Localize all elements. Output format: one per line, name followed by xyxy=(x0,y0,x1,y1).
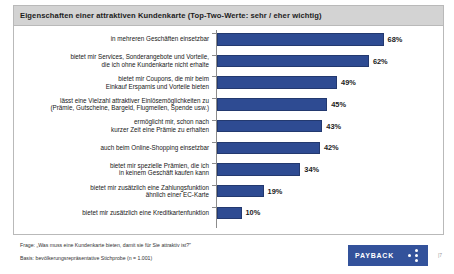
bar xyxy=(217,185,264,198)
axis-tick xyxy=(212,55,216,56)
footnote-question: Frage: „Was muss eine Kundenkarte bieten… xyxy=(20,242,191,248)
bar-category-label: lässt eine Vielzahl attraktiver Einlösem… xyxy=(19,97,209,112)
page-number: |7 xyxy=(438,252,442,258)
payback-logo-text: PAYBACK xyxy=(355,252,394,259)
payback-logo: PAYBACK xyxy=(348,245,428,266)
bar-value-label: 10% xyxy=(246,208,261,217)
bar-value-label: 34% xyxy=(304,165,319,174)
bar-category-label: in mehreren Geschäften einsetzbar xyxy=(19,35,209,43)
bar-category-label: auch beim Online-Shopping einsetzbar xyxy=(19,144,209,152)
bar xyxy=(217,98,327,111)
bar-category-label: bietet mir zusätzlich eine Zahlungsfunkt… xyxy=(19,184,209,199)
axis-tick xyxy=(212,120,216,121)
chart-footer: Frage: „Was muss eine Kundenkarte bieten… xyxy=(13,241,444,273)
bar-value-label: 45% xyxy=(331,100,346,109)
axis-tick xyxy=(212,33,216,34)
bar-category-label: bietet mir spezielle Prämien, die ich in… xyxy=(19,162,209,177)
bar xyxy=(217,76,337,89)
chart-title-band: Eigenschaften einer attraktiven Kundenka… xyxy=(14,6,443,26)
bar-value-label: 42% xyxy=(324,143,339,152)
bar xyxy=(217,163,300,176)
axis-tick xyxy=(212,185,216,186)
axis-tick xyxy=(212,207,216,208)
page-title: Eigenschaften einer attraktiven Kundenka… xyxy=(20,11,322,20)
bar-value-label: 19% xyxy=(268,187,283,196)
bar-value-label: 68% xyxy=(388,35,403,44)
bar-chart-plot-area: in mehreren Geschäften einsetzbar68%biet… xyxy=(14,26,443,234)
payback-dots-icon xyxy=(408,249,421,262)
bar-category-label: bietet mir Coupons, die mir beim Einkauf… xyxy=(19,75,209,90)
bar-category-label: bietet mir Services, Sonderangebote und … xyxy=(19,53,209,68)
bar-value-label: 49% xyxy=(341,78,356,87)
bar-category-label: ermöglicht mir, schon nach kurzer Zeit e… xyxy=(19,118,209,133)
bar-value-label: 62% xyxy=(373,57,388,66)
bar-category-label: bietet mir zusätzlich eine Kreditkartenf… xyxy=(19,209,209,217)
axis-tick xyxy=(212,98,216,99)
chart-panel: Eigenschaften einer attraktiven Kundenka… xyxy=(13,5,444,235)
bar xyxy=(217,207,242,220)
bar xyxy=(217,120,322,133)
bar xyxy=(217,142,320,155)
axis-tick xyxy=(212,163,216,164)
axis-tick xyxy=(212,142,216,143)
bar-value-label: 43% xyxy=(326,122,341,131)
footnote-base: Basis: bevölkerungsrepräsentative Stichp… xyxy=(20,255,152,261)
axis-tick xyxy=(212,76,216,77)
bar xyxy=(217,55,369,68)
bar xyxy=(217,33,384,46)
